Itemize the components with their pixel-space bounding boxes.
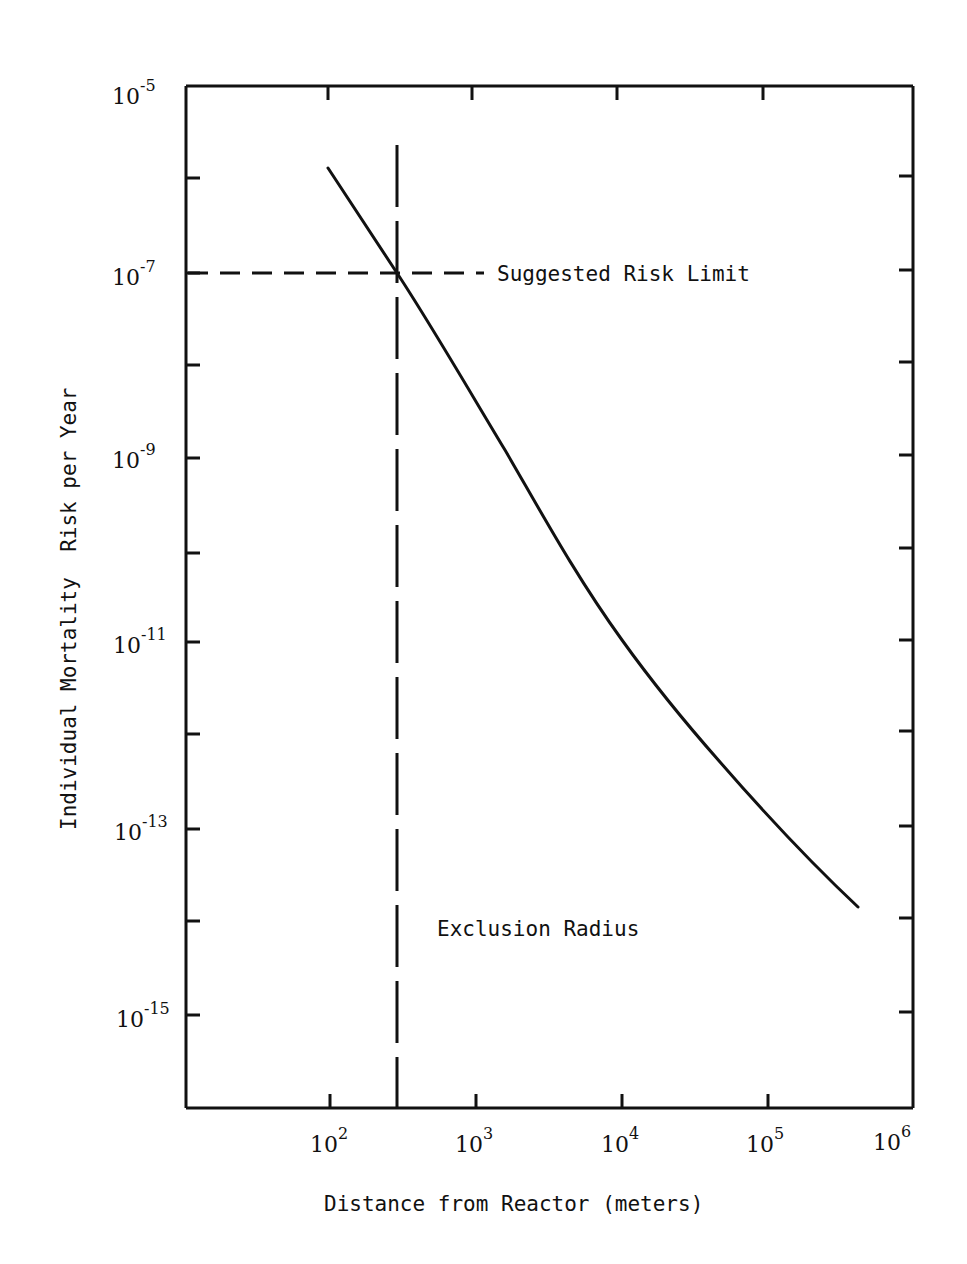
x-tick-label: 103	[455, 1124, 493, 1157]
suggested-risk-limit-label: Suggested Risk Limit	[497, 262, 750, 286]
y-tick-labels: 10-5 10-7 10-9 10-11 10-13 10-15	[112, 76, 170, 1032]
y-tick-label: 10-5	[112, 76, 156, 109]
x-tick-label: 104	[601, 1124, 639, 1157]
risk-vs-distance-chart: Suggested Risk Limit Exclusion Radius 10…	[0, 0, 967, 1264]
y-tick-label: 10-13	[114, 812, 168, 845]
y-tick-label: 10-9	[112, 440, 156, 473]
exclusion-radius-label: Exclusion Radius	[437, 917, 639, 941]
y-axis-ticks	[186, 176, 913, 1015]
plot-frame	[186, 86, 913, 1108]
y-tick-label: 10-15	[116, 999, 170, 1032]
x-tick-label: 105	[746, 1124, 784, 1157]
y-tick-label: 10-7	[112, 257, 156, 290]
y-tick-label: 10-11	[113, 625, 167, 658]
x-tick-labels: 102 103 104 105 106	[310, 1122, 911, 1157]
x-tick-label: 102	[310, 1124, 348, 1157]
x-axis-ticks	[328, 86, 768, 1108]
x-tick-label: 106	[873, 1122, 911, 1155]
x-axis-title: Distance from Reactor (meters)	[324, 1192, 703, 1216]
y-axis-title: Individual Mortality Risk per Year	[57, 387, 81, 830]
